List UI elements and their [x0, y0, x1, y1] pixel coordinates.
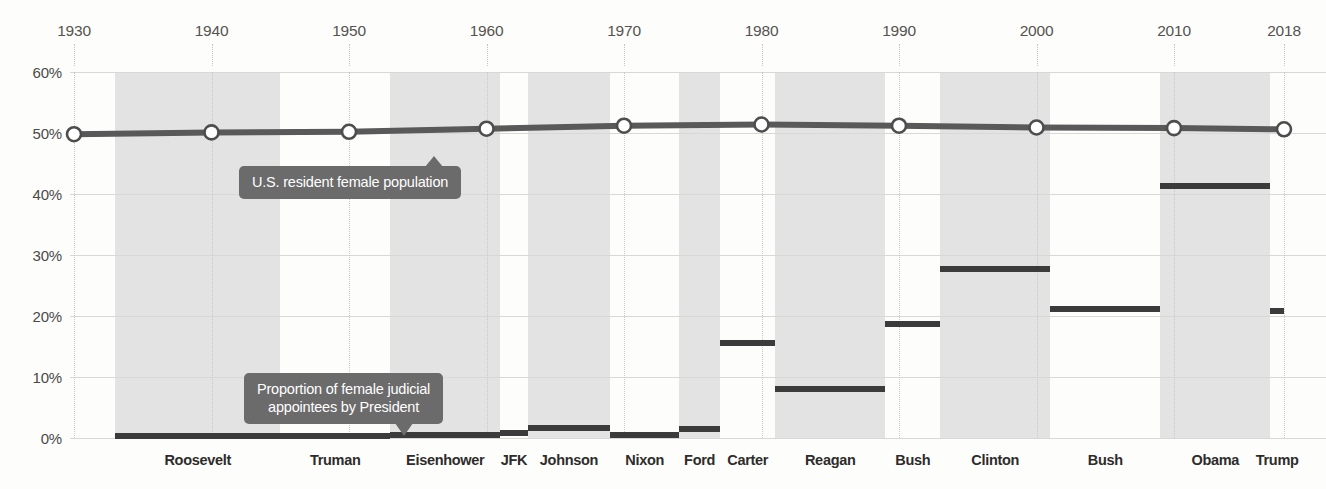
x-axis-year-label: 1990: [882, 22, 916, 40]
x-axis-tick: [487, 44, 488, 66]
president-name-label: Eisenhower: [406, 452, 484, 468]
y-axis-tick-label: 10%: [0, 369, 62, 386]
president-name-label: Johnson: [540, 452, 598, 468]
chart-container: 1930194019501960197019801990200020102018…: [0, 0, 1326, 489]
population-line-marker: [342, 125, 356, 139]
appointees-callout: Proportion of female judicial appointees…: [244, 373, 443, 424]
x-axis-year-label: 1980: [745, 22, 779, 40]
population-line-marker: [1277, 122, 1291, 136]
president-name-label: Bush: [1088, 452, 1123, 468]
president-name-label: Obama: [1191, 452, 1239, 468]
population-line-marker: [755, 118, 769, 132]
callout-arrow-up-icon: [425, 156, 443, 167]
president-name-label: Ford: [684, 452, 715, 468]
population-line-marker: [205, 125, 219, 139]
x-axis-year-label: 2018: [1267, 22, 1301, 40]
president-name-label: Truman: [310, 452, 361, 468]
appointees-callout-line2: appointees by President: [257, 398, 430, 416]
x-axis-tick: [1284, 44, 1285, 66]
x-axis-tick: [74, 44, 75, 66]
x-axis-year-label: 1940: [195, 22, 229, 40]
president-name-label: Reagan: [805, 452, 856, 468]
x-axis-year-label: 2010: [1157, 22, 1191, 40]
x-axis-tick: [1037, 44, 1038, 66]
appointees-callout-line1: Proportion of female judicial: [257, 381, 430, 397]
y-axis-tick-label: 50%: [0, 125, 62, 142]
president-name-label: Roosevelt: [164, 452, 231, 468]
president-name-label: Nixon: [625, 452, 664, 468]
x-axis-tick: [1174, 44, 1175, 66]
x-axis-year-label: 1950: [332, 22, 366, 40]
x-axis-year-label: 1930: [57, 22, 91, 40]
callout-arrow-down-icon: [395, 423, 413, 436]
y-axis-tick-label: 60%: [0, 64, 62, 81]
x-axis-year-label: 1970: [607, 22, 641, 40]
population-line-marker: [480, 122, 494, 136]
population-line-marker: [1030, 121, 1044, 135]
x-axis-tick: [762, 44, 763, 66]
population-line-marker: [617, 119, 631, 133]
x-axis-year-label: 1960: [470, 22, 504, 40]
president-name-label: JFK: [501, 452, 528, 468]
president-name-label: Carter: [727, 452, 768, 468]
population-line-marker: [1167, 121, 1181, 135]
population-line-path: [74, 125, 1284, 135]
x-axis-tick: [624, 44, 625, 66]
y-axis-tick-label: 40%: [0, 186, 62, 203]
x-axis-tick: [212, 44, 213, 66]
y-axis-tick-label: 0%: [0, 430, 62, 447]
population-line-marker: [892, 119, 906, 133]
x-axis-tick: [349, 44, 350, 66]
population-callout-text: U.S. resident female population: [252, 174, 448, 190]
president-name-label: Trump: [1256, 452, 1299, 468]
population-callout: U.S. resident female population: [239, 166, 461, 199]
president-name-label: Bush: [895, 452, 930, 468]
president-name-label: Clinton: [971, 452, 1019, 468]
y-axis-tick-label: 30%: [0, 247, 62, 264]
population-line-marker: [67, 127, 81, 141]
x-axis-tick: [899, 44, 900, 66]
y-axis-tick-label: 20%: [0, 308, 62, 325]
x-axis-year-label: 2000: [1020, 22, 1054, 40]
